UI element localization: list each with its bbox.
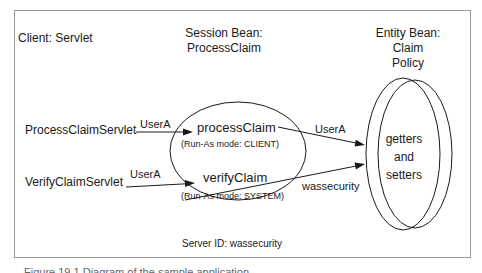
diagram-canvas: Client: Servlet Session Bean: ProcessCla… [0, 0, 482, 273]
verify-claim-method-label: verifyClaim [203, 170, 267, 185]
usera-label-process-left: UserA [140, 118, 171, 130]
verify-claim-servlet-label: VerifyClaimServlet [25, 175, 123, 189]
entity-bean-content-line2: and [369, 148, 439, 166]
entity-bean-content-line1: getters [369, 130, 439, 148]
process-claim-servlet-label: ProcessClaimServlet [25, 123, 136, 137]
process-claim-run-as-label: (Run-As mode: CLIENT) [181, 139, 279, 149]
figure-caption-clipped: Figure 19.1 Diagram of the sample applic… [24, 265, 464, 273]
session-bean-header-line1: Session Bean: [159, 26, 289, 41]
server-id-label: Server ID: wassecurity [182, 238, 282, 249]
usera-label-verify-left: UserA [130, 168, 161, 180]
entity-bean-header-line1: Entity Bean: [358, 26, 458, 41]
process-claim-method-label: processClaim [197, 120, 276, 135]
entity-bean-header-line2: Claim [358, 41, 458, 56]
wassecurity-label: wassecurity [302, 180, 359, 192]
entity-bean-header: Entity Bean: Claim Policy [358, 26, 458, 71]
session-bean-header-line2: ProcessClaim [159, 41, 289, 56]
client-label: Client: Servlet [18, 31, 93, 45]
entity-bean-header-line3: Policy [358, 56, 458, 71]
verify-claim-run-as-label: (Run-As mode: SYSTEM) [181, 191, 284, 201]
entity-bean-content: getters and setters [369, 130, 439, 184]
session-bean-header: Session Bean: ProcessClaim [159, 26, 289, 56]
usera-label-process-right: UserA [315, 123, 346, 135]
entity-bean-content-line3: setters [369, 166, 439, 184]
